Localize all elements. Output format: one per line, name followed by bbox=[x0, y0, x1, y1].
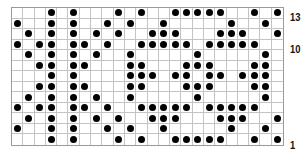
grid-cell bbox=[125, 103, 136, 114]
stitch-dot-icon bbox=[48, 41, 55, 48]
grid-cell bbox=[35, 19, 46, 30]
grid-cell bbox=[260, 103, 271, 114]
stitch-dot-icon bbox=[14, 41, 21, 48]
grid-cell bbox=[68, 71, 79, 82]
stitch-dot-icon bbox=[262, 20, 269, 27]
grid-cell bbox=[272, 71, 283, 82]
stitch-dot-icon bbox=[138, 136, 145, 143]
stitch-dot-icon bbox=[217, 9, 224, 16]
stitch-dot-icon bbox=[127, 72, 134, 79]
grid-cell bbox=[114, 103, 125, 114]
grid-cell bbox=[238, 29, 249, 40]
grid-cell bbox=[148, 50, 159, 61]
grid-cell bbox=[35, 29, 46, 40]
stitch-dot-icon bbox=[48, 51, 55, 58]
grid-cell bbox=[148, 29, 159, 40]
grid-cell bbox=[23, 8, 34, 19]
grid-cell bbox=[80, 19, 91, 30]
grid-cell bbox=[238, 103, 249, 114]
stitch-dot-icon bbox=[70, 72, 77, 79]
grid-cell bbox=[136, 61, 147, 72]
grid-cell bbox=[181, 134, 192, 145]
grid-cell bbox=[68, 134, 79, 145]
stitch-dot-icon bbox=[228, 41, 235, 48]
grid-cell bbox=[249, 113, 260, 124]
grid-cell bbox=[114, 113, 125, 124]
stitch-dot-icon bbox=[206, 136, 213, 143]
grid-cell bbox=[91, 61, 102, 72]
grid-cell bbox=[272, 92, 283, 103]
grid-cell bbox=[227, 134, 238, 145]
stitch-dot-icon bbox=[48, 104, 55, 111]
grid-cell bbox=[159, 113, 170, 124]
grid-cell bbox=[91, 103, 102, 114]
grid-cell bbox=[272, 50, 283, 61]
grid-cell bbox=[148, 71, 159, 82]
grid-cell bbox=[102, 8, 113, 19]
grid-cell bbox=[193, 19, 204, 30]
stitch-dot-icon bbox=[228, 104, 235, 111]
grid-cell bbox=[114, 50, 125, 61]
stitch-dot-icon bbox=[239, 115, 246, 122]
stitch-dot-icon bbox=[194, 136, 201, 143]
stitch-dot-icon bbox=[48, 9, 55, 16]
grid-cell bbox=[227, 124, 238, 135]
grid-cell bbox=[57, 134, 68, 145]
grid-cell bbox=[114, 124, 125, 135]
grid-cell bbox=[272, 134, 283, 145]
stitch-dot-icon bbox=[239, 30, 246, 37]
stitch-dot-icon bbox=[228, 20, 235, 27]
grid-cell bbox=[159, 103, 170, 114]
stitch-dot-icon bbox=[239, 104, 246, 111]
stitch-dot-icon bbox=[262, 83, 269, 90]
grid-cell bbox=[181, 92, 192, 103]
grid-cell bbox=[159, 71, 170, 82]
grid-cell bbox=[35, 92, 46, 103]
stitch-dot-icon bbox=[93, 94, 100, 101]
grid-cell bbox=[23, 71, 34, 82]
stitch-dot-icon bbox=[70, 94, 77, 101]
grid-cell bbox=[57, 40, 68, 51]
grid-cell bbox=[215, 134, 226, 145]
stitch-dot-icon bbox=[183, 136, 190, 143]
grid-cell bbox=[125, 50, 136, 61]
grid-cell bbox=[102, 61, 113, 72]
grid-cell bbox=[136, 103, 147, 114]
stitch-dot-icon bbox=[138, 41, 145, 48]
grid-cell bbox=[57, 61, 68, 72]
grid-cell bbox=[159, 19, 170, 30]
stitch-dot-icon bbox=[228, 125, 235, 132]
stitch-dot-icon bbox=[104, 20, 111, 27]
stitch-dot-icon bbox=[194, 83, 201, 90]
grid-cell bbox=[193, 113, 204, 124]
stitch-dot-icon bbox=[183, 72, 190, 79]
stitch-dot-icon bbox=[127, 62, 134, 69]
grid-cell bbox=[136, 50, 147, 61]
grid-cell bbox=[193, 71, 204, 82]
grid-cell bbox=[68, 61, 79, 72]
grid-cell bbox=[102, 71, 113, 82]
grid-cell bbox=[23, 61, 34, 72]
stitch-dot-icon bbox=[206, 83, 213, 90]
grid-cell bbox=[80, 82, 91, 93]
stitch-dot-icon bbox=[160, 104, 167, 111]
grid-cell bbox=[125, 40, 136, 51]
grid-cell bbox=[12, 50, 23, 61]
grid-cell bbox=[238, 61, 249, 72]
stitch-dot-icon bbox=[251, 72, 258, 79]
grid-cell bbox=[68, 103, 79, 114]
grid-cell bbox=[227, 71, 238, 82]
stitch-dot-icon bbox=[217, 72, 224, 79]
grid-cell bbox=[91, 40, 102, 51]
stitch-dot-icon bbox=[36, 41, 43, 48]
grid-cell bbox=[114, 61, 125, 72]
stitch-dot-icon bbox=[194, 9, 201, 16]
grid-cell bbox=[181, 40, 192, 51]
stitch-dot-icon bbox=[274, 9, 281, 16]
stitch-dot-icon bbox=[194, 51, 201, 58]
stitch-dot-icon bbox=[217, 41, 224, 48]
grid-cell bbox=[215, 113, 226, 124]
stitch-dot-icon bbox=[194, 94, 201, 101]
grid-cell bbox=[125, 124, 136, 135]
grid-cell bbox=[272, 113, 283, 124]
